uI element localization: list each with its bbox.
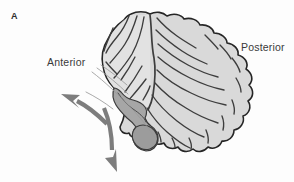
arrow-anterior-rotation: [61, 94, 107, 124]
panel-letter-a: A: [11, 11, 18, 21]
figure-panel-a: A Anterior Posterior: [0, 0, 294, 182]
arrow-upper-shaft: [77, 101, 107, 124]
label-posterior: Posterior: [241, 41, 285, 53]
arrow-lower-shaft: [104, 108, 112, 150]
arrow-lower-head: [105, 149, 117, 172]
pointer-line-4: [86, 92, 113, 109]
label-anterior: Anterior: [47, 56, 85, 68]
cerebellum-illustration: [0, 0, 294, 182]
cerebellum-body: [102, 12, 252, 152]
arrow-inferior-rotation: [104, 108, 117, 172]
